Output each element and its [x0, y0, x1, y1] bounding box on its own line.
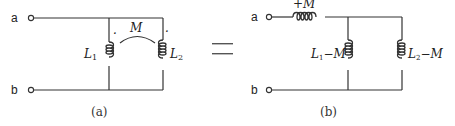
figure-a: a b L1 · L2 · M (a) [11, 11, 183, 119]
l2-label: L2 [169, 47, 183, 62]
terminal-a-node-b [266, 14, 271, 19]
series-coil-icon [293, 13, 316, 21]
l1-label: L1 [83, 47, 97, 62]
terminal-a-node [28, 15, 33, 20]
shunt1-label: L1−M [310, 47, 346, 62]
circuit-diagram: a b L1 · L2 · M (a) a b [0, 0, 455, 126]
mutual-coupling-arc-icon [120, 37, 155, 44]
shunt2-coil-icon [398, 40, 406, 58]
l1-dot: · [113, 27, 117, 41]
shunt2-label: L2−M [407, 47, 443, 62]
terminal-b-node-b [266, 87, 271, 92]
series-label: +M [293, 0, 316, 11]
equals-sign-icon [212, 43, 233, 54]
terminal-b-label-b: b [251, 83, 258, 97]
terminal-b-node [28, 87, 33, 92]
terminal-a-label-b: a [251, 10, 258, 24]
l2-coil-icon [159, 40, 167, 58]
caption-b: (b) [320, 105, 337, 119]
figure-b: a b +M L1−M L2−M (b) [251, 0, 443, 119]
terminal-b-label: b [11, 83, 18, 97]
l1-coil-icon [106, 42, 114, 57]
caption-a: (a) [91, 105, 108, 119]
shunt1-coil-icon [345, 40, 353, 58]
l2-dot: · [165, 25, 169, 39]
terminal-a-label: a [11, 11, 18, 25]
mutual-label: M [129, 21, 143, 35]
